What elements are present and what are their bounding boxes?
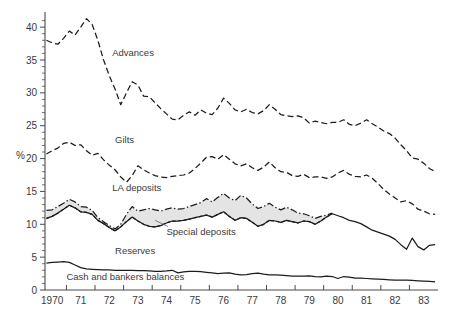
x-tick-label: 71 [75, 295, 87, 306]
series-label-special-deposits: Special deposits [166, 226, 235, 237]
x-tick-label: 73 [132, 295, 144, 306]
y-tick-label: 10 [26, 219, 38, 230]
x-tick-label: 79 [304, 295, 316, 306]
series-label-cash-and-bankers-balances: Cash and bankers balances [66, 271, 184, 282]
y-axis-title: % [16, 150, 25, 161]
series-label-gilts: Gilts [115, 134, 134, 145]
x-tick-label: 76 [218, 295, 230, 306]
y-tick-label: 0 [31, 285, 37, 296]
y-tick-label: 25 [26, 120, 38, 131]
series-label-advances: Advances [112, 47, 154, 58]
x-tick-label: 77 [247, 295, 259, 306]
x-tick-label: 81 [361, 295, 373, 306]
y-tick-label: 30 [26, 87, 38, 98]
x-tick-label: 82 [390, 295, 402, 306]
y-tick-label: 15 [26, 186, 38, 197]
x-tick-label: 72 [104, 295, 116, 306]
x-tick-label: 83 [418, 295, 430, 306]
x-tick-label: 80 [332, 295, 344, 306]
bank-balance-sheet-line-chart: 0510152025303540 19707172737475767778798… [0, 0, 451, 326]
y-tick-label: 35 [26, 55, 38, 66]
series-label-reserves: Reserves [115, 245, 155, 256]
y-tick-label: 40 [26, 22, 38, 33]
x-tick-label: 1970 [41, 295, 64, 306]
y-tick-label: 20 [26, 153, 38, 164]
x-tick-label: 74 [161, 295, 173, 306]
x-tick-label: 75 [189, 295, 201, 306]
x-tick-label: 78 [275, 295, 287, 306]
chart-container: 0510152025303540 19707172737475767778798… [0, 0, 451, 326]
y-tick-label: 5 [31, 252, 37, 263]
series-label-la-deposits: LA deposits [112, 182, 161, 193]
